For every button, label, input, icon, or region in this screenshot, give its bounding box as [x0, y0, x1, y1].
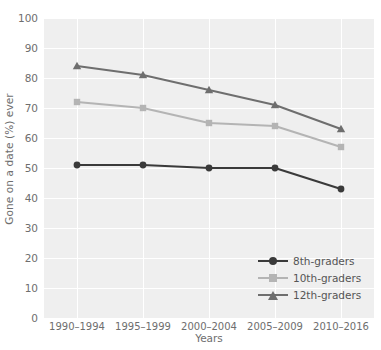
y-tick-label: 40	[2, 192, 38, 204]
x-tick-label: 1990–1994	[49, 321, 105, 332]
y-tick-label: 0	[2, 312, 38, 324]
legend-item-10th-graders[interactable]: 10th-graders	[258, 269, 370, 286]
y-tick-label: 20	[2, 252, 38, 264]
legend-marker-icon	[258, 254, 288, 268]
legend-item-8th-graders[interactable]: 8th-graders	[258, 252, 370, 269]
x-tick-label: 2000–2004	[181, 321, 237, 332]
gridline-vertical	[77, 18, 78, 318]
y-tick-label: 90	[2, 42, 38, 54]
legend-marker	[269, 274, 277, 282]
line-chart: Gone on a date (%) ever 1009080706050403…	[0, 0, 381, 350]
legend-item-12th-graders[interactable]: 12th-graders	[258, 286, 370, 303]
legend-marker-icon	[258, 271, 288, 285]
x-axis-title: Years	[44, 332, 374, 344]
x-tick-label: 2005–2009	[247, 321, 303, 332]
legend: 8th-graders10th-graders12th-graders	[258, 252, 370, 303]
y-tick-label: 60	[2, 132, 38, 144]
legend-marker	[269, 257, 277, 265]
y-tick-label: 30	[2, 222, 38, 234]
legend-label: 10th-graders	[293, 272, 361, 284]
legend-marker-icon	[258, 288, 288, 302]
y-tick-label: 50	[2, 162, 38, 174]
y-tick-label: 10	[2, 282, 38, 294]
x-tick-label: 2010–2016	[313, 321, 369, 332]
gridline-vertical	[143, 18, 144, 318]
gridline-vertical	[209, 18, 210, 318]
x-tick-label: 1995–1999	[115, 321, 171, 332]
y-tick-label: 70	[2, 102, 38, 114]
legend-label: 12th-graders	[293, 289, 361, 301]
legend-marker	[268, 291, 278, 300]
y-tick-label: 100	[2, 12, 38, 24]
legend-label: 8th-graders	[293, 255, 355, 267]
y-tick-label: 80	[2, 72, 38, 84]
